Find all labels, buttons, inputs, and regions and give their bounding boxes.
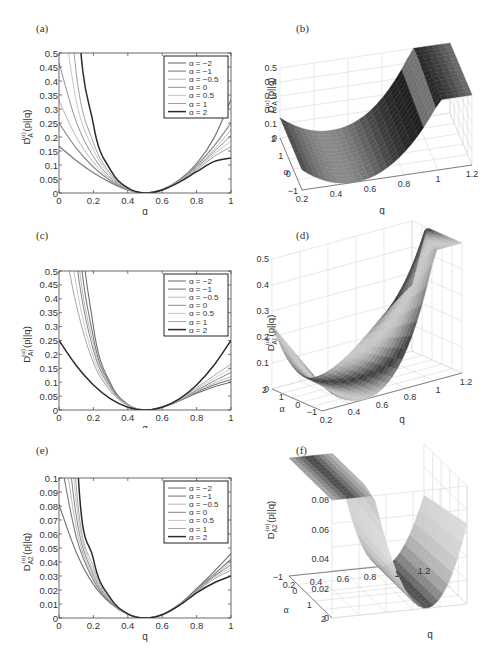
y-axis-label: DA2(α)(p||q) [263, 501, 278, 539]
panel-b: (b) 00.10.20.30.40.50.20.40.60.811.2−101… [252, 0, 504, 215]
y-tick-label: 0.15 [40, 146, 59, 157]
y-tick-label: 0.1 [45, 160, 58, 171]
legend-entry: α = 2 [189, 326, 208, 335]
y-tick-label: −1 [307, 407, 317, 417]
x-tick-label: 0.6 [337, 574, 350, 584]
y-tick-label: 0.45 [40, 62, 59, 73]
x-tick-label: 0.2 [87, 620, 100, 631]
y-axis-label: DAI(α)(p||q) [263, 315, 278, 352]
z-tick-label: 0.5 [264, 63, 277, 73]
x-tick-label: 0.2 [320, 415, 333, 425]
x-tick-label: 0.4 [330, 189, 343, 199]
alpha-axis-label: α [279, 403, 285, 414]
y-tick-label: 0.2 [45, 349, 58, 360]
x-tick-label: 1 [394, 569, 399, 579]
surface-chart-f: 00.020.040.060.081.210.80.60.40.2−1012qα… [252, 428, 504, 648]
svg-text:DA2(α)(p||q): DA2(α)(p||q) [263, 501, 278, 539]
z-tick-label: 0.08 [311, 495, 329, 505]
y-tick-label: 0.35 [40, 307, 59, 318]
x-tick-label: 0 [56, 412, 61, 423]
y-tick-label: 1 [307, 600, 312, 610]
y-tick-label: 0.05 [40, 174, 59, 185]
x-axis-label: q [142, 206, 148, 215]
x-tick-label: 0.4 [121, 412, 134, 423]
y-tick-label: 0.3 [45, 104, 58, 115]
x-tick-label: 0.4 [121, 195, 134, 206]
x-tick-label: 0.6 [156, 620, 169, 631]
y-axis-label: DA(α)(p||q) [263, 78, 278, 113]
y-tick-label: 0.1 [45, 473, 58, 484]
x-tick-label: 0 [56, 620, 61, 631]
z-tick-label: 0.1 [256, 358, 269, 368]
x-tick-label: 1 [228, 195, 233, 206]
x-tick-label: 0.8 [404, 392, 417, 402]
y-axis-label: DAI(α)(p||q) [19, 326, 34, 363]
x-axis-label: q [399, 414, 405, 425]
x-tick-label: 0.6 [156, 412, 169, 423]
x-tick-label: 1 [228, 620, 233, 631]
y-tick-label: 0.2 [45, 132, 58, 143]
y-tick-label: 0.01 [40, 599, 59, 610]
x-tick-label: 0.8 [364, 572, 377, 582]
legend-entry: α = 2 [189, 533, 208, 542]
z-tick-label: 0.4 [256, 280, 269, 290]
y-tick-label: 0.4 [45, 76, 58, 87]
y-axis-label: DA(α)(p||q) [19, 110, 34, 145]
series-line [59, 341, 231, 411]
y-tick-label: −1 [288, 186, 298, 196]
x-tick-label: 1 [435, 174, 440, 184]
y-axis-label: DA2(α)(p||q) [19, 533, 34, 571]
panel-c: (c) 00.050.10.150.20.250.30.350.40.450.5… [0, 215, 252, 428]
y-tick-label: 0.25 [40, 335, 59, 346]
svg-text:DA2(α)(p||q): DA2(α)(p||q) [19, 533, 34, 571]
svg-text:DA(α)(p||q): DA(α)(p||q) [263, 78, 278, 113]
y-tick-label: −1 [273, 572, 283, 582]
x-tick-label: 0.8 [190, 620, 203, 631]
x-tick-label: 1.2 [418, 566, 431, 576]
legend-entry: α = 2 [189, 108, 208, 117]
x-tick-label: 0.8 [190, 412, 203, 423]
y-tick-label: 0.08 [40, 501, 59, 512]
x-tick-label: 0.2 [87, 195, 100, 206]
alpha-axis-label: α [283, 166, 289, 177]
x-tick-label: 0.6 [376, 400, 389, 410]
y-tick-label: 1 [278, 151, 283, 161]
y-tick-label: 0 [292, 586, 297, 596]
x-tick-label: 1.2 [460, 377, 473, 387]
x-tick-label: 0.4 [310, 577, 323, 587]
y-tick-label: 0.1 [45, 377, 58, 388]
y-tick-label: 0 [295, 400, 300, 410]
x-tick-label: 0.4 [121, 620, 134, 631]
x-tick-label: 0.8 [190, 195, 203, 206]
y-tick-label: 0.02 [40, 585, 59, 596]
surface-chart-b: 00.10.20.30.40.50.20.40.60.811.2−1012qαD… [252, 0, 504, 215]
x-tick-label: 0.2 [87, 412, 100, 423]
x-tick-label: 1.2 [466, 169, 479, 179]
y-tick-label: 0.07 [40, 515, 59, 526]
line-chart-a: 00.050.10.150.20.250.30.350.40.450.500.2… [0, 0, 252, 215]
z-tick-label: 0.04 [311, 554, 329, 564]
svg-text:DAI(α)(p||q): DAI(α)(p||q) [263, 315, 278, 352]
panel-a: (a) 00.050.10.150.20.250.30.350.40.450.5… [0, 0, 252, 215]
y-tick-label: 2 [262, 385, 267, 395]
y-tick-label: 2 [321, 614, 326, 624]
y-tick-label: 0.4 [45, 293, 58, 304]
x-tick-label: 0.4 [348, 407, 361, 417]
y-tick-label: 0.45 [40, 279, 59, 290]
x-tick-label: 0 [56, 195, 61, 206]
y-tick-label: 0.5 [45, 48, 58, 59]
z-tick-label: 0.5 [256, 254, 269, 264]
y-tick-label: 2 [271, 134, 276, 144]
panel-d: (d) 00.10.20.30.40.50.20.40.60.811.2−101… [252, 215, 504, 428]
legend: α = −2α = −1α = −0.5α = 0α = 0.5α = 1α =… [164, 56, 228, 118]
y-tick-label: 0.03 [40, 571, 59, 582]
x-axis-label: q [427, 629, 433, 640]
x-axis-label: q [142, 631, 148, 642]
z-tick-label: 0.06 [311, 525, 329, 535]
y-tick-label: 0.35 [40, 90, 59, 101]
svg-text:DAI(α)(p||q): DAI(α)(p||q) [19, 326, 34, 363]
y-tick-label: 0.25 [40, 118, 59, 129]
panel-e: (e) 00.010.020.030.040.050.060.070.080.0… [0, 428, 252, 648]
z-tick-label: 0.3 [256, 306, 269, 316]
panel-f: (f) 00.020.040.060.081.210.80.60.40.2−10… [252, 428, 504, 648]
